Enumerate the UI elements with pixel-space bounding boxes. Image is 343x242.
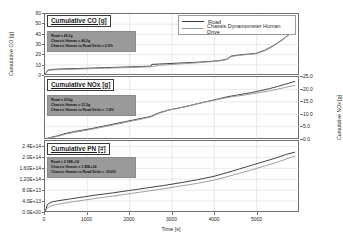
pn-y-tick-mark bbox=[42, 179, 45, 180]
x-tick-label: 0 bbox=[32, 216, 56, 222]
co-annotation-delta: Chassis Human to Road Delta = 2.5% bbox=[51, 44, 132, 49]
x-axis-title: Time [s] bbox=[128, 226, 214, 232]
pn-annotation-box: Road = 2.18E+14 Chassis Human = 1.95E+14… bbox=[47, 157, 136, 178]
x-tick-label: 4000 bbox=[202, 216, 226, 222]
co-y-tick-mark bbox=[42, 13, 45, 14]
x-tick-label: 3000 bbox=[160, 216, 184, 222]
x-tick-mark bbox=[129, 212, 130, 215]
legend-line-road-icon bbox=[182, 21, 204, 22]
chart-legend: Road Chassis Dynamometer Human Drive bbox=[178, 15, 296, 35]
pn-panel-title: Cumulative PN [#] bbox=[47, 143, 110, 155]
co-y-tick-label: 10 bbox=[35, 62, 41, 68]
pn-y-tick-label: 2.0E+14 bbox=[22, 154, 41, 160]
nox-y-axis-title: Cumulative NOx [g] bbox=[336, 95, 342, 140]
nox-y-tick-label: 15.0 bbox=[303, 98, 313, 104]
nox-y-tick-label: 10.0 bbox=[303, 111, 313, 117]
co-panel-title: Cumulative CO [g] bbox=[47, 15, 111, 27]
co-y-axis-title: Cumulative CO [g] bbox=[8, 32, 14, 76]
co-y-tick-label: 50 bbox=[35, 20, 41, 26]
legend-line-chassis-icon bbox=[182, 28, 203, 29]
x-tick-mark bbox=[44, 212, 45, 215]
nox-y-tick-mark bbox=[300, 76, 303, 77]
nox-y-tick-mark bbox=[300, 101, 303, 102]
nox-annotation-box: Road = 23.0g Chassis Human = 21.3g Chass… bbox=[47, 95, 136, 116]
x-tick-label: 2000 bbox=[117, 216, 141, 222]
co-y-tick-mark bbox=[42, 34, 45, 35]
pn-y-tick-mark bbox=[42, 157, 45, 158]
co-y-tick-label: 60 bbox=[35, 10, 41, 16]
pn-annotation-delta: Chassis Human to Road Delta = -10.6% bbox=[51, 170, 132, 175]
chart-figure: Cumulative CO [g] Cumulative CO [g] Road… bbox=[0, 0, 343, 242]
legend-label-chassis: Chassis Dynamometer Human Drive bbox=[207, 23, 291, 35]
x-tick-mark bbox=[87, 212, 88, 215]
co-y-tick-mark bbox=[42, 44, 45, 45]
nox-annotation-delta: Chassis Human to Road Delta = -7.4% bbox=[51, 108, 132, 113]
pn-y-tick-mark bbox=[42, 190, 45, 191]
x-tick-mark bbox=[172, 212, 173, 215]
co-y-tick-label: 40 bbox=[35, 31, 41, 37]
nox-panel-title: Cumulative NOx [g] bbox=[47, 79, 114, 91]
nox-y-tick-mark bbox=[300, 89, 303, 90]
pn-y-tick-mark bbox=[42, 168, 45, 169]
nox-y-tick-mark bbox=[300, 139, 303, 140]
pn-y-tick-label: 1.20E+14 bbox=[19, 176, 41, 182]
pn-y-tick-label: 1.60E+14 bbox=[19, 165, 41, 171]
nox-y-tick-mark bbox=[300, 114, 303, 115]
pn-y-tick-label: 8.0E+13 bbox=[22, 187, 41, 193]
pn-y-tick-label: 2.4E+14 bbox=[22, 143, 41, 149]
legend-item-chassis: Chassis Dynamometer Human Drive bbox=[182, 25, 291, 32]
x-tick-label: 1000 bbox=[75, 216, 99, 222]
x-tick-mark bbox=[214, 212, 215, 215]
co-y-tick-mark bbox=[42, 23, 45, 24]
co-y-tick-label: 30 bbox=[35, 41, 41, 47]
co-y-tick-label: 20 bbox=[35, 51, 41, 57]
nox-y-tick-mark bbox=[300, 126, 303, 127]
x-tick-label: 5000 bbox=[245, 216, 269, 222]
co-y-tick-mark bbox=[42, 54, 45, 55]
nox-y-tick-label: 0.0 bbox=[303, 136, 310, 142]
pn-y-tick-label: 0.0E+00 bbox=[22, 209, 41, 215]
co-y-tick-mark bbox=[42, 75, 45, 76]
nox-y-tick-label: 20.0 bbox=[303, 86, 313, 92]
x-tick-mark bbox=[257, 212, 258, 215]
pn-y-tick-mark bbox=[42, 201, 45, 202]
nox-y-tick-label: 25.0 bbox=[303, 73, 313, 79]
co-y-tick-mark bbox=[42, 65, 45, 66]
pn-y-tick-mark bbox=[42, 146, 45, 147]
pn-y-tick-label: 4.0E+13 bbox=[22, 198, 41, 204]
co-annotation-box: Road = 45.1g Chassis Human = 46.2g Chass… bbox=[47, 31, 136, 52]
nox-y-tick-label: 5.0 bbox=[303, 123, 310, 129]
